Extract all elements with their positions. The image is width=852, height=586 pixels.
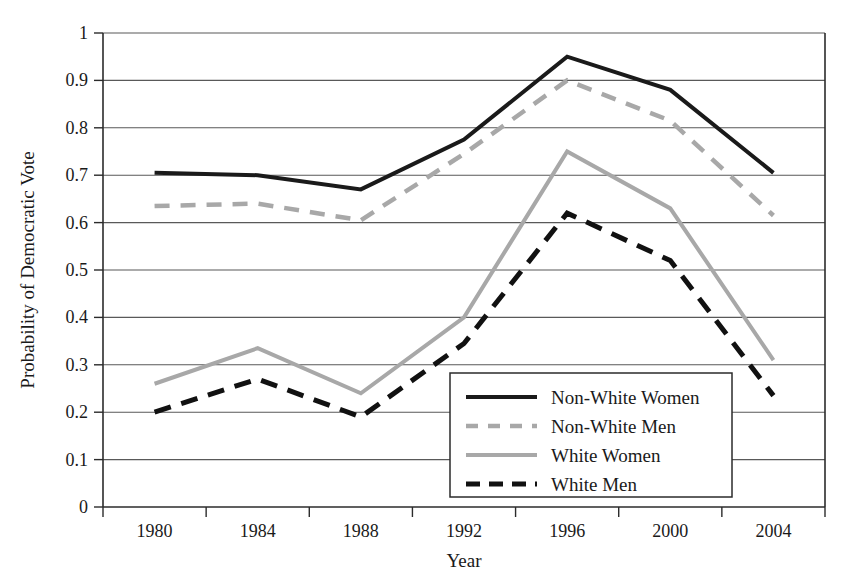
x-tick-label: 2000 <box>652 521 688 541</box>
legend-label-white-women: White Women <box>551 445 661 466</box>
x-axis-tick-labels: 1980198419881992199620002004 <box>137 521 792 541</box>
y-tick-label: 1 <box>79 23 88 43</box>
y-tick-label: 0.4 <box>66 307 89 327</box>
legend-label-non-white-men: Non-White Men <box>551 416 677 437</box>
x-tick-label: 1988 <box>343 521 379 541</box>
x-tick-label: 1992 <box>446 521 482 541</box>
x-axis-title: Year <box>446 550 482 571</box>
y-tick-label: 0.3 <box>66 355 89 375</box>
y-tick-label: 0.5 <box>66 260 89 280</box>
y-axis-tick-marks <box>94 33 103 507</box>
x-tick-label: 1980 <box>137 521 173 541</box>
legend-label-non-white-women: Non-White Women <box>551 387 700 408</box>
y-tick-label: 0.9 <box>66 70 89 90</box>
line-chart: 00.10.20.30.40.50.60.70.80.91 1980198419… <box>0 0 852 586</box>
y-axis-title: Probability of Democratic Vote <box>17 151 38 388</box>
y-tick-label: 0.7 <box>66 165 89 185</box>
legend-label-white-men: White Men <box>551 474 638 495</box>
x-tick-label: 2004 <box>755 521 791 541</box>
y-tick-label: 0.8 <box>66 118 89 138</box>
x-axis-tick-marks <box>103 507 825 517</box>
y-axis-tick-labels: 00.10.20.30.40.50.60.70.80.91 <box>66 23 89 517</box>
y-tick-label: 0.2 <box>66 402 89 422</box>
chart-legend: Non-White WomenNon-White MenWhite WomenW… <box>450 373 732 497</box>
y-tick-label: 0 <box>79 497 88 517</box>
y-tick-label: 0.1 <box>66 450 89 470</box>
x-tick-label: 1996 <box>549 521 585 541</box>
x-tick-label: 1984 <box>240 521 276 541</box>
y-tick-label: 0.6 <box>66 213 89 233</box>
chart-container: 00.10.20.30.40.50.60.70.80.91 1980198419… <box>0 0 852 586</box>
